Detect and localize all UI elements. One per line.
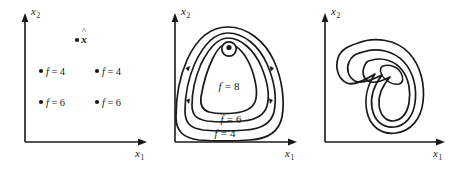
sample-dot — [39, 100, 43, 104]
point-label-f6-right: f=6 — [102, 97, 121, 108]
point-label-f4-right: f=4 — [102, 66, 122, 77]
sample-dot — [95, 100, 99, 104]
y-axis — [22, 13, 29, 142]
contour-banana-third — [363, 59, 410, 121]
y-axis — [172, 13, 179, 142]
optimum-dot — [226, 45, 231, 50]
point-f6-left: f=6 — [39, 97, 65, 108]
sample-dot — [95, 69, 99, 73]
point-f4-left: f=4 — [39, 66, 66, 77]
contour-label-f4: f=4 — [215, 127, 236, 139]
x-axis-label: x1 — [134, 147, 144, 162]
x-axis — [325, 139, 445, 146]
panel-nested-contours: x2 x1 f=8 — [155, 0, 305, 169]
point-label-f6-left: f=6 — [46, 97, 65, 108]
point-label-f4-left: f=4 — [46, 66, 66, 77]
contour-tick-right-2 — [269, 99, 273, 105]
y-axis-label: x2 — [30, 5, 40, 20]
x-hat-dot — [75, 38, 79, 42]
y-axis — [322, 13, 329, 142]
x-axis-label: x1 — [284, 147, 294, 162]
y-axis-label: x2 — [330, 5, 340, 20]
y-axis-label: x2 — [180, 5, 190, 20]
point-f6-right: f=6 — [95, 97, 121, 108]
x-hat-label: x — [80, 33, 87, 45]
contour-label-f8: f=8 — [219, 80, 240, 92]
point-x-hat: ^ x — [75, 26, 87, 46]
x-axis — [25, 139, 147, 146]
contour-comparison-figure: x2 x1 ^ x f=4 f=4 — [0, 0, 459, 169]
x-axis-label: x1 — [432, 147, 442, 162]
contour-banana-outer — [337, 40, 424, 134]
sample-dot — [39, 69, 43, 73]
contour-label-f6: f=6 — [221, 113, 242, 125]
panel-banana-contours: x2 x1 — [305, 0, 459, 169]
panel-sampled-points: x2 x1 ^ x f=4 f=4 — [0, 0, 155, 169]
optimum-marker — [222, 42, 236, 56]
contour-tick-left — [186, 66, 191, 72]
point-f4-right: f=4 — [95, 66, 122, 77]
contour-tick-left-2 — [186, 99, 190, 105]
